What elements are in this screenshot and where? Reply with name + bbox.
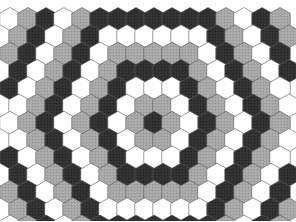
hexagon-cell-layer bbox=[0, 8, 296, 222]
hexagon-tiling-figure bbox=[0, 0, 296, 221]
hexagon-tiling-canvas bbox=[0, 0, 296, 221]
